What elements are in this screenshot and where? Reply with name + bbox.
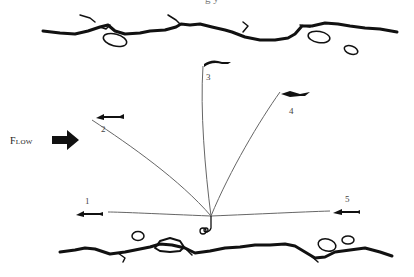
fish-icon-2 [96, 114, 124, 120]
tether-diagram [0, 0, 414, 277]
fish-icon-5 [333, 209, 360, 215]
rock [317, 237, 337, 253]
flow-arrow-icon [52, 130, 79, 150]
fish-icon-1 [76, 211, 103, 217]
position-label-2: 2 [101, 124, 106, 134]
flow-label: Flow [10, 135, 33, 146]
fish-icon-4 [281, 91, 310, 97]
tether-lines [92, 66, 330, 216]
rock [343, 44, 359, 56]
position-label-1: 1 [85, 196, 90, 206]
rock [342, 236, 354, 244]
anchor-icon [200, 216, 211, 234]
bottom-riverbank [60, 232, 392, 263]
top-riverbank [43, 15, 397, 56]
fish-icons [76, 60, 360, 217]
position-label-4: 4 [289, 106, 294, 116]
position-label-5: 5 [345, 194, 350, 204]
position-label-3: 3 [206, 72, 211, 82]
rock [132, 232, 144, 241]
rock [307, 30, 331, 45]
fish-icon-3 [204, 60, 231, 67]
